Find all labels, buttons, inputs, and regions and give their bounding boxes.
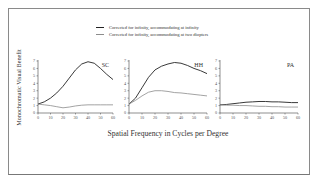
y-tick-label: 3 <box>33 88 35 93</box>
x-tick-label: 60 <box>296 115 300 120</box>
y-tick-label: 5 <box>215 73 217 78</box>
x-tick-label: 40 <box>270 115 274 120</box>
panel-label: PA <box>287 62 295 68</box>
x-tick-label: 20 <box>244 115 248 120</box>
y-tick-label: 7 <box>124 58 126 63</box>
x-tick-label: 60 <box>205 115 209 120</box>
series-line-two-diopters <box>220 105 298 107</box>
y-tick-label: 7 <box>33 58 35 63</box>
x-tick-label: 10 <box>48 115 52 120</box>
series-line-two-diopters <box>38 104 113 108</box>
y-tick-label: 3 <box>215 88 217 93</box>
x-tick-label: 50 <box>283 115 287 120</box>
panel-label: SC <box>102 62 109 68</box>
y-tick-label: 6 <box>215 66 217 71</box>
y-tick-label: 6 <box>33 66 35 71</box>
y-tick-label: 0 <box>124 110 126 115</box>
x-tick-label: 0 <box>37 115 39 120</box>
y-tick-label: 0 <box>33 110 35 115</box>
y-tick-label: 1 <box>215 103 217 108</box>
x-tick-label: 30 <box>166 115 170 120</box>
y-tick-label: 2 <box>33 96 35 101</box>
y-tick-label: 5 <box>33 73 35 78</box>
x-tick-label: 50 <box>98 115 102 120</box>
series-line-infinity <box>129 62 207 104</box>
series-line-two-diopters <box>129 91 207 104</box>
y-tick-label: 4 <box>215 81 218 86</box>
y-tick-label: 6 <box>124 66 126 71</box>
x-tick-label: 30 <box>73 115 77 120</box>
y-tick-label: 4 <box>33 81 36 86</box>
x-tick-label: 0 <box>128 115 130 120</box>
x-tick-label: 60 <box>111 115 115 120</box>
y-tick-label: 0 <box>215 110 217 115</box>
x-tick-label: 10 <box>140 115 144 120</box>
y-tick-label: 7 <box>215 58 217 63</box>
y-tick-label: 1 <box>33 103 35 108</box>
series-line-infinity <box>38 62 113 104</box>
y-tick-label: 3 <box>124 88 126 93</box>
y-tick-label: 4 <box>124 81 127 86</box>
x-tick-label: 0 <box>219 115 221 120</box>
x-tick-label: 40 <box>179 115 183 120</box>
y-tick-label: 2 <box>124 96 126 101</box>
panel-label: HH <box>194 62 203 68</box>
x-tick-label: 10 <box>231 115 235 120</box>
series-line-infinity <box>220 101 298 104</box>
x-tick-label: 20 <box>153 115 157 120</box>
chart-plot-area: 012345670102030405060SC01234567010203040… <box>0 0 319 184</box>
y-tick-label: 1 <box>124 103 126 108</box>
x-tick-label: 50 <box>192 115 196 120</box>
y-tick-label: 5 <box>124 73 126 78</box>
x-tick-label: 40 <box>86 115 90 120</box>
x-tick-label: 20 <box>61 115 65 120</box>
y-tick-label: 2 <box>215 96 217 101</box>
x-tick-label: 30 <box>257 115 261 120</box>
